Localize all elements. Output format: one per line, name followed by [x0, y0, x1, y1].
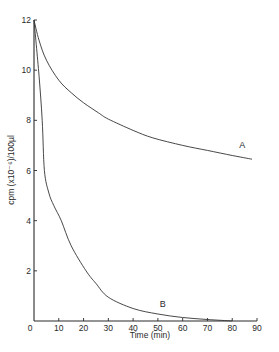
- decay-line-chart: 0102030405060708090 24681012 AB Time (mi…: [0, 0, 279, 352]
- x-tick-label: 90: [252, 323, 262, 333]
- x-tick-label: 70: [203, 323, 213, 333]
- y-axis-label: cpm (x10⁻⁶)/100µl: [6, 135, 16, 205]
- x-tick-label: 0: [28, 323, 33, 333]
- y-axis-ticks: 24681012: [22, 15, 37, 276]
- y-tick-label: 2: [26, 266, 31, 276]
- x-tick-label: 60: [178, 323, 188, 333]
- x-tick-label: 80: [227, 323, 237, 333]
- x-tick-label: 10: [54, 323, 64, 333]
- curve-b: [34, 20, 232, 321]
- y-tick-label: 10: [22, 65, 32, 75]
- curve-a: [34, 20, 252, 159]
- y-tick-label: 12: [22, 15, 32, 25]
- y-tick-label: 8: [26, 115, 31, 125]
- curve-label-b: B: [160, 299, 166, 309]
- curve-label-a: A: [239, 140, 245, 150]
- x-tick-label: 30: [104, 323, 114, 333]
- plot-area: 0102030405060708090 24681012 AB Time (mi…: [6, 15, 262, 340]
- y-tick-label: 6: [26, 166, 31, 176]
- x-axis-label: Time (min): [130, 330, 170, 340]
- x-tick-label: 20: [79, 323, 89, 333]
- curves: AB: [34, 20, 252, 321]
- y-tick-label: 4: [26, 216, 31, 226]
